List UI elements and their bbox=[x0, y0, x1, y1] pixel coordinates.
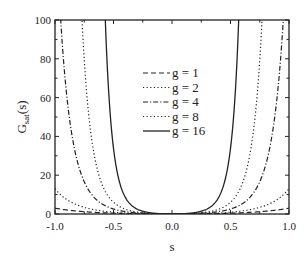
legend-label: g = 2 bbox=[172, 80, 199, 95]
y-tick-label: 80 bbox=[40, 53, 52, 65]
x-tick-label: 0.5 bbox=[224, 220, 238, 232]
legend-label: g = 8 bbox=[172, 109, 199, 124]
x-tick-label: 1.0 bbox=[282, 220, 296, 232]
legend-label: g = 1 bbox=[172, 65, 199, 80]
x-axis-title: s bbox=[169, 239, 174, 254]
legend: g = 1g = 2g = 4g = 8g = 16 bbox=[143, 65, 206, 138]
y-tick-label: 0 bbox=[46, 208, 52, 220]
y-tick-label: 100 bbox=[35, 14, 52, 26]
y-tick-label: 60 bbox=[40, 92, 52, 104]
y-tick-label: 20 bbox=[40, 169, 52, 181]
x-tick-label: -1.0 bbox=[46, 220, 64, 232]
axis-ticks: -1.0-0.50.00.51.0020406080100 bbox=[35, 14, 297, 232]
legend-label: g = 16 bbox=[172, 123, 206, 138]
y-axis-title: Gsat(s) bbox=[14, 100, 31, 133]
legend-label: g = 4 bbox=[172, 94, 199, 109]
x-tick-label: -0.5 bbox=[105, 220, 123, 232]
x-tick-label: 0.0 bbox=[165, 220, 179, 232]
y-tick-label: 40 bbox=[40, 130, 52, 142]
chart: -1.0-0.50.00.51.0020406080100 g = 1g = 2… bbox=[0, 0, 306, 258]
svg-text:Gsat(s): Gsat(s) bbox=[14, 100, 31, 133]
